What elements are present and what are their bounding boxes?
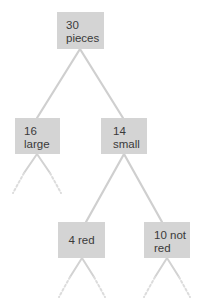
node-small-label: small xyxy=(113,138,147,151)
node-not-red-line1: 10 not xyxy=(154,229,190,242)
edge-root-large xyxy=(37,49,80,118)
node-small: 14 small xyxy=(101,118,147,154)
stub-large-right xyxy=(37,154,50,173)
dashed-not-red-right xyxy=(179,277,190,297)
node-small-count: 14 xyxy=(113,125,147,138)
dashed-not-red-left xyxy=(144,277,155,297)
node-large-count: 16 xyxy=(24,125,60,138)
node-large: 16 large xyxy=(15,118,60,154)
node-large-label: large xyxy=(24,138,60,151)
tree-diagram: 30 pieces 16 large 14 small 4 red 10 not… xyxy=(0,0,198,305)
stub-not-red-left xyxy=(155,258,167,277)
node-root-count: 30 xyxy=(66,19,104,32)
edge-small-red xyxy=(86,154,124,222)
dashed-large-right xyxy=(50,173,61,193)
dashed-red-right xyxy=(94,277,105,297)
edge-small-not-red xyxy=(124,154,162,222)
stub-not-red-right xyxy=(167,258,179,277)
node-root: 30 pieces xyxy=(57,12,104,49)
edge-root-small xyxy=(80,49,123,118)
dashed-large-left xyxy=(13,173,24,193)
node-not-red: 10 not red xyxy=(144,222,190,258)
node-red: 4 red xyxy=(58,222,105,258)
node-red-label: 4 red xyxy=(68,234,94,247)
node-not-red-line2: red xyxy=(154,242,190,255)
stub-red-left xyxy=(70,258,82,277)
stub-red-right xyxy=(82,258,94,277)
node-root-label: pieces xyxy=(66,32,104,45)
stub-large-left xyxy=(24,154,37,173)
dashed-red-left xyxy=(59,277,70,297)
